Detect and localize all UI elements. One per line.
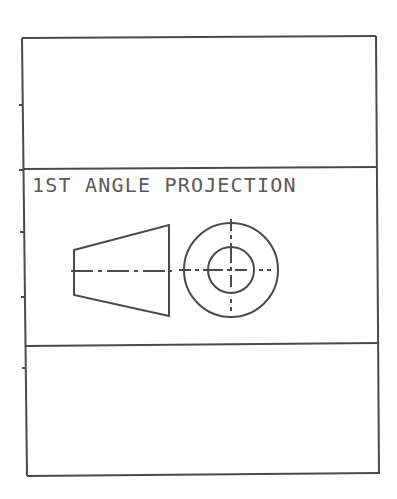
drawing-sheet: 1ST ANGLE PROJECTION <box>0 0 397 499</box>
title-block-drawing: 1ST ANGLE PROJECTION <box>0 0 397 499</box>
side-view-circles <box>179 219 283 321</box>
projection-title: 1ST ANGLE PROJECTION <box>32 173 297 197</box>
divider-lower <box>26 343 378 346</box>
frame-left-edge <box>22 38 27 476</box>
divider-upper <box>23 167 377 169</box>
front-view-truncated-cone <box>71 225 172 316</box>
outer-frame <box>22 36 379 476</box>
frame-top-edge <box>22 36 376 38</box>
frame-bottom-edge <box>27 473 379 476</box>
frame-right-edge <box>376 36 379 474</box>
